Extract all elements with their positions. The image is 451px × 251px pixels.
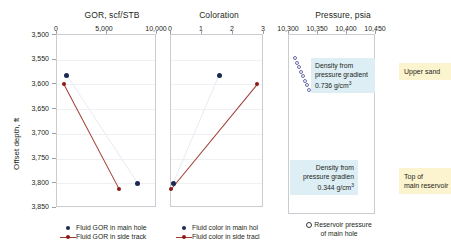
- panel-title-pressure: Pressure, psia: [288, 10, 398, 20]
- legend-label-2: of main hole: [289, 230, 389, 239]
- y-tick-label: 3,700: [23, 129, 49, 136]
- y-tick-label: 3,600: [23, 80, 49, 87]
- legend-marker-line-dot-red: [60, 235, 76, 239]
- legend-coloration: Fluid color in main hol Fluid color in s…: [176, 223, 286, 241]
- gridline: [57, 60, 155, 61]
- legend-item-reservoir-pressure: Reservoir pressure: [289, 221, 389, 230]
- callout-value: 0.736 g/cm3: [315, 79, 371, 90]
- y-tick-label: 3,650: [23, 105, 49, 112]
- data-point-reservoir-pressure[interactable]: [297, 65, 301, 69]
- y-axis-label: Offset depth, ft: [12, 118, 21, 170]
- plot-area-gor: [56, 34, 156, 207]
- callout-value: 0.344 g/cm3: [294, 181, 354, 192]
- legend-marker-dot-blue: [60, 226, 76, 230]
- tag-line-2: main reservoir: [404, 181, 446, 190]
- legend-gor: Fluid GOR in main hole Fluid GOR in side…: [60, 223, 147, 241]
- callout-line-1: Density from: [294, 163, 354, 172]
- legend-item-main-hole[interactable]: Fluid color in main hol: [176, 223, 286, 232]
- x-tick-mark: [232, 30, 233, 34]
- data-point-reservoir-pressure[interactable]: [303, 79, 307, 83]
- y-tick-label: 3,500: [23, 31, 49, 38]
- callout-line-1: Density from: [315, 61, 371, 70]
- panel-title-coloration: Coloration: [170, 10, 268, 20]
- legend-marker-line-dot-red: [176, 235, 192, 239]
- gridline: [171, 183, 262, 184]
- data-point-reservoir-pressure[interactable]: [295, 61, 299, 65]
- callout-line-2: pressure gradien: [294, 172, 354, 181]
- gridline: [171, 84, 262, 85]
- y-tick-mark: [52, 207, 56, 208]
- legend-label: Fluid color in side tracl: [192, 233, 260, 240]
- data-point-reservoir-pressure[interactable]: [293, 56, 297, 60]
- gridline: [57, 109, 155, 110]
- data-point-side-track[interactable]: [255, 82, 259, 86]
- callout-density-lower: Density from pressure gradien 0.344 g/cm…: [290, 160, 358, 195]
- y-tick-label: 3,850: [23, 203, 49, 210]
- legend-item-side-track[interactable]: Fluid color in side tracl: [176, 232, 286, 241]
- tag-line-1: Top of: [404, 172, 446, 181]
- legend-label: Fluid GOR in side track: [76, 233, 146, 240]
- data-point-side-track[interactable]: [169, 187, 173, 191]
- data-point-reservoir-pressure[interactable]: [305, 83, 309, 87]
- gridline: [171, 60, 262, 61]
- x-tick-mark: [56, 30, 57, 34]
- x-tick-mark: [375, 30, 376, 34]
- x-tick-mark: [288, 30, 289, 34]
- series-line-main-hole: [173, 75, 220, 183]
- legend-label: Fluid GOR in main hole: [76, 224, 147, 231]
- plot-area-coloration: [170, 34, 263, 207]
- legend-label: Reservoir pressure: [314, 221, 371, 228]
- legend-marker-dot-blue: [176, 226, 192, 230]
- callout-exponent: 3: [349, 80, 352, 86]
- series-line-side-track: [64, 85, 120, 190]
- legend-item-main-hole[interactable]: Fluid GOR in main hole: [60, 223, 147, 232]
- x-tick-mark: [201, 30, 202, 34]
- x-tick-label: 5,000: [92, 25, 116, 32]
- data-point-main-hole[interactable]: [64, 73, 69, 78]
- data-point-reservoir-pressure[interactable]: [301, 74, 305, 78]
- series-line-main-hole: [66, 75, 137, 183]
- data-point-main-hole[interactable]: [171, 181, 176, 186]
- figure-root: Offset depth, ft 3,500 3,550 3,600 3,650…: [0, 0, 451, 251]
- gridline: [57, 183, 155, 184]
- data-point-reservoir-pressure[interactable]: [299, 70, 303, 74]
- legend-pressure[interactable]: Reservoir pressure of main hole: [289, 221, 389, 238]
- legend-item-side-track[interactable]: Fluid GOR in side track: [60, 232, 147, 241]
- x-tick-mark: [170, 30, 171, 34]
- data-point-main-hole[interactable]: [217, 73, 222, 78]
- x-tick-mark: [106, 30, 107, 34]
- callout-density-upper: Density from pressure gradient 0.736 g/c…: [311, 58, 375, 93]
- callout-line-2: pressure gradient: [315, 70, 371, 79]
- gridline: [171, 109, 262, 110]
- tag-line-1: Upper sand: [404, 67, 446, 76]
- gridline: [57, 159, 155, 160]
- x-tick-mark: [317, 30, 318, 34]
- y-tick-label: 3,550: [23, 55, 49, 62]
- x-tick-mark: [156, 30, 157, 34]
- x-tick-mark: [263, 30, 264, 34]
- tag-main-reservoir: Top of main reservoir: [399, 168, 451, 194]
- data-point-side-track[interactable]: [117, 187, 121, 191]
- data-point-main-hole[interactable]: [135, 181, 140, 186]
- open-circle-icon: [306, 222, 312, 228]
- series-line-side-track: [171, 84, 258, 190]
- panel-title-gor: GOR, scf/STB: [56, 10, 168, 20]
- y-tick-label: 3,750: [23, 154, 49, 161]
- legend-label: Fluid color in main hol: [192, 224, 258, 231]
- x-tick-mark: [346, 30, 347, 34]
- tag-upper-sand: Upper sand: [399, 63, 451, 80]
- gridline: [171, 159, 262, 160]
- callout-exponent: 3: [351, 182, 354, 188]
- y-tick-label: 3,800: [23, 179, 49, 186]
